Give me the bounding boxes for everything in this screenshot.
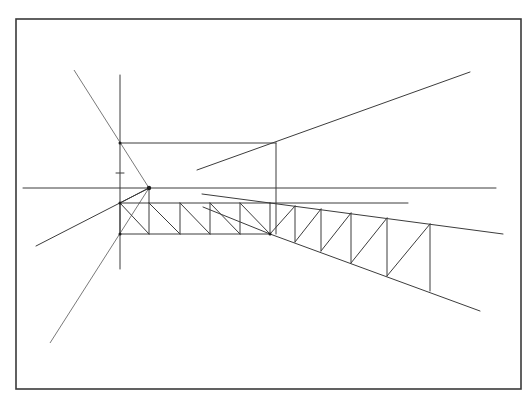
perspective-drawing (0, 0, 532, 399)
ray-upper-right (197, 72, 470, 170)
truss-receding (270, 203, 503, 311)
truss-bottom-left-point (119, 233, 122, 236)
vp-point (147, 186, 151, 190)
truss-diagonal (149, 203, 180, 234)
diagonal-lower-left (50, 188, 149, 343)
truss-diagonal (210, 203, 240, 234)
receding-diagonal (295, 209, 321, 242)
diagonal-upper-left (74, 70, 149, 188)
receding-diagonal (321, 213, 351, 251)
rect-corner-point (119, 142, 122, 145)
truss-top-left-point (119, 202, 122, 205)
truss-diagonal (240, 203, 270, 234)
drawing-frame (16, 19, 521, 389)
receding-bottom-chord (270, 234, 480, 311)
truss-diagonal (120, 203, 149, 234)
truss-junction-point (269, 233, 272, 236)
truss-front-elevation (120, 188, 270, 234)
construction-lines (36, 70, 470, 343)
receding-diagonal (270, 206, 295, 234)
receding-diagonal (387, 224, 430, 276)
converging-upper (202, 194, 270, 203)
receding-diagonal (351, 218, 387, 263)
